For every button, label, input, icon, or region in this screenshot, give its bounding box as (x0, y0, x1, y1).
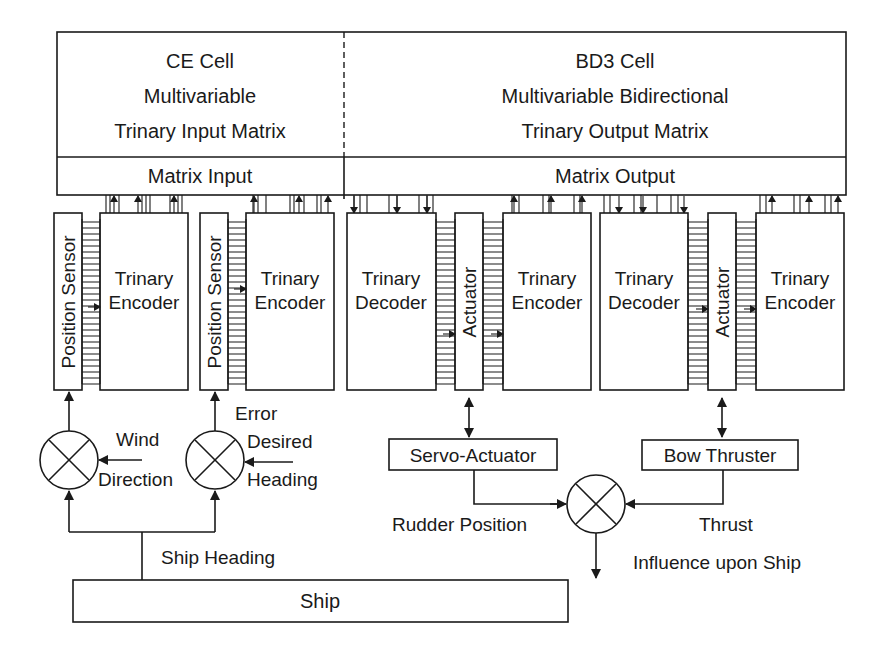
bow-thruster-label: Bow Thruster (664, 445, 777, 466)
ship-heading-label: Ship Heading (161, 547, 275, 568)
servo-actuator-label: Servo-Actuator (410, 445, 537, 466)
signal-ladder (228, 219, 246, 384)
desired-label-line2: Heading (247, 469, 318, 490)
sensor-module-2: Position Sensor Trinary Encoder (200, 213, 334, 390)
wind-label-line1: Wind (116, 429, 159, 450)
encoder-label-line1: Trinary (518, 268, 577, 289)
ship-control-diagram: CE Cell Multivariable Trinary Input Matr… (0, 0, 884, 654)
bus-connectors (106, 195, 831, 213)
decoder-label-line2: Decoder (355, 292, 427, 313)
actuator-label: Actuator (459, 266, 480, 337)
position-sensor-label: Position Sensor (58, 235, 79, 369)
heading-summing-junction: Error Desired Heading (186, 392, 318, 490)
influence-summing-junction: Rudder Position Thrust Influence upon Sh… (392, 470, 801, 578)
rudder-position-label: Rudder Position (392, 514, 527, 535)
decoder-label-line1: Trinary (362, 268, 421, 289)
top-panel: CE Cell Multivariable Trinary Input Matr… (57, 32, 846, 199)
actuator-label: Actuator (712, 266, 733, 337)
bd3-cell-line2: Multivariable Bidirectional (502, 85, 729, 107)
servo-actuator-block: Servo-Actuator (389, 398, 557, 470)
encoder-label-line2: Encoder (765, 292, 836, 313)
signal-ladder (82, 219, 100, 384)
ce-cell-line3: Trinary Input Matrix (114, 120, 286, 142)
encoder-label-line2: Encoder (109, 292, 180, 313)
matrix-input-label: Matrix Input (148, 165, 253, 187)
ce-cell-line2: Multivariable (144, 85, 256, 107)
bus-arrows (114, 196, 838, 213)
decoder-label-line1: Trinary (615, 268, 674, 289)
ship-heading-feedback: Ship Heading (69, 491, 275, 580)
encoder-label-line1: Trinary (771, 268, 830, 289)
encoder-label-line1: Trinary (115, 268, 174, 289)
sensor-module-1: Position Sensor Trinary Encoder (54, 213, 188, 390)
desired-label-line1: Desired (247, 431, 312, 452)
bd3-cell-line3: Trinary Output Matrix (521, 120, 708, 142)
position-sensor-label: Position Sensor (204, 235, 225, 369)
ship-block: Ship (73, 580, 568, 622)
wind-summing-junction: Wind Direction (40, 392, 173, 490)
ship-label: Ship (300, 590, 340, 612)
encoder-label-line2: Encoder (255, 292, 326, 313)
error-label: Error (235, 403, 278, 424)
decoder-label-line2: Decoder (608, 292, 680, 313)
bow-thruster-block: Bow Thruster (642, 398, 798, 470)
encoder-label-line1: Trinary (261, 268, 320, 289)
actuator-module-2: Trinary Decoder Actuator Trinary Encoder (600, 213, 844, 390)
matrix-output-label: Matrix Output (555, 165, 675, 187)
actuator-module-1: Trinary Decoder Actuator Trinary Encoder (347, 213, 591, 390)
ce-cell-title: CE Cell (166, 50, 234, 72)
influence-label: Influence upon Ship (633, 552, 801, 573)
bd3-cell-title: BD3 Cell (576, 50, 655, 72)
thrust-label: Thrust (699, 514, 754, 535)
wind-label-line2: Direction (98, 469, 173, 490)
encoder-label-line2: Encoder (512, 292, 583, 313)
